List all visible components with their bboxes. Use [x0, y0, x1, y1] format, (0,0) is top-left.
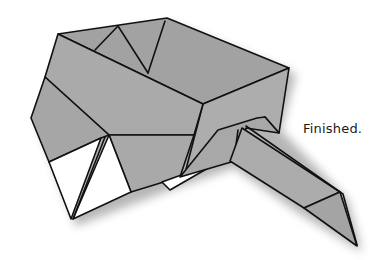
origami-diagram: Finished.	[0, 0, 382, 260]
finished-caption: Finished.	[303, 121, 362, 136]
